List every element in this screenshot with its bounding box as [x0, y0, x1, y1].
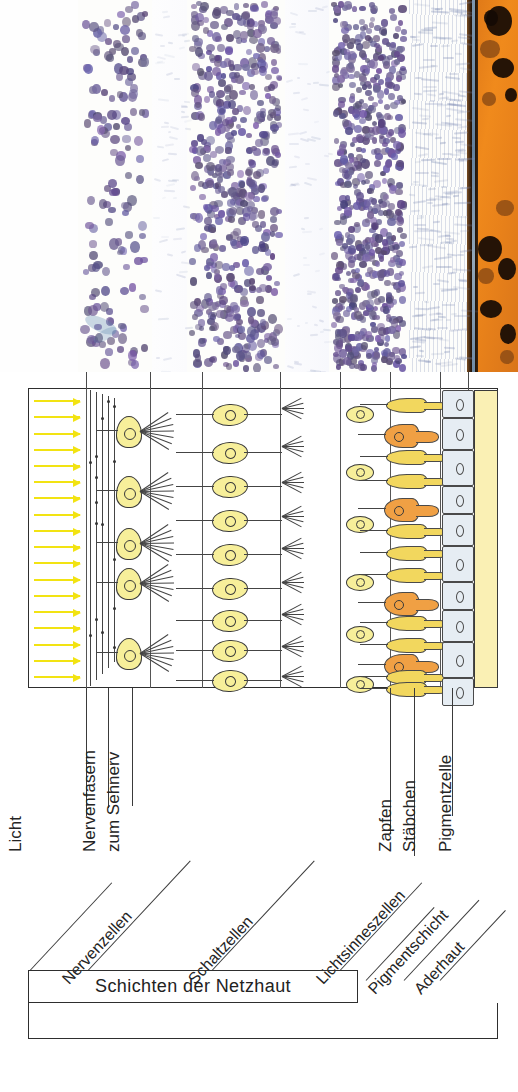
plexiform-fiber	[303, 257, 307, 259]
fiber-node	[95, 522, 98, 525]
micrograph-nucleus	[375, 315, 380, 320]
bipolar-axon	[244, 452, 282, 453]
cone-axon	[358, 602, 386, 603]
micrograph-nucleus	[92, 84, 101, 94]
micrograph-nucleus	[244, 266, 253, 276]
micrograph-nucleus	[338, 101, 345, 108]
micrograph-nucleus	[192, 35, 199, 42]
micrograph-nucleus	[84, 119, 91, 127]
pigment-cell	[442, 514, 474, 546]
bipolar-dendrite	[176, 680, 214, 681]
micrograph-nucleus	[215, 217, 223, 225]
photoreceptor-streak	[436, 266, 452, 268]
rod-axon	[360, 480, 388, 481]
label-zapfen: Zapfen	[376, 799, 396, 852]
micrograph-nucleus	[125, 231, 134, 239]
pigment-cell	[442, 582, 474, 610]
bipolar-axon	[244, 554, 282, 555]
micrograph-nucleus	[200, 233, 207, 240]
pigment-cell	[442, 390, 474, 418]
micrograph-nucleus	[338, 42, 345, 49]
layer-tick	[202, 372, 203, 388]
photoreceptor-streak	[415, 291, 425, 294]
rod-axon	[360, 622, 388, 623]
micrograph-nucleus	[390, 185, 397, 191]
micrograph-nucleus	[89, 22, 98, 32]
micrograph-nucleus	[331, 322, 337, 328]
light-arrow	[34, 497, 80, 499]
micrograph-nucleus	[242, 259, 250, 267]
light-arrow	[34, 514, 80, 516]
photoreceptor-streak	[432, 21, 448, 24]
micrograph-nucleus	[101, 89, 108, 96]
micrograph-nucleus	[136, 155, 144, 163]
micrograph-nucleus	[383, 210, 389, 216]
micrograph-nucleus	[237, 170, 244, 178]
micrograph-nucleus	[138, 221, 147, 231]
ganglion-axon	[96, 652, 118, 653]
micrograph-nucleus	[108, 207, 116, 214]
micrograph-nucleus	[210, 242, 218, 249]
micrograph-nucleus	[206, 162, 215, 171]
micrograph-nucleus	[249, 160, 256, 168]
light-arrow	[34, 627, 80, 629]
plexiform-fiber	[163, 15, 170, 18]
ganglion-cell	[116, 528, 142, 560]
micrograph-nucleus	[370, 310, 376, 317]
micrograph-nucleus	[225, 47, 233, 55]
pigment-cell	[442, 678, 474, 706]
choroid-brown-patch	[500, 350, 514, 364]
label-staebchen: Stäbchen	[400, 780, 420, 852]
rod-axon	[360, 456, 388, 457]
micrograph-nucleus	[356, 134, 363, 142]
bipolar-axon	[244, 486, 282, 487]
micrograph-nucleus	[338, 305, 344, 310]
micrograph-nucleus	[221, 73, 227, 79]
choroid-brown-patch	[496, 200, 514, 216]
micrograph-nucleus	[361, 342, 368, 349]
micrograph-nucleus	[231, 130, 238, 136]
bipolar-dendrite	[176, 588, 214, 589]
fiber-node	[113, 558, 116, 561]
horizontal-cell	[346, 406, 374, 423]
photoreceptor-streak	[454, 315, 470, 317]
micrograph-nucleus	[249, 212, 258, 220]
choroid-brown-patch	[478, 268, 494, 284]
micrograph-nucleus	[359, 50, 367, 58]
micrograph-nucleus	[335, 267, 342, 273]
bipolar-axon	[244, 680, 282, 681]
plexiform-fiber	[304, 216, 310, 218]
plexiform-fiber	[165, 143, 174, 146]
micrograph-nucleus	[332, 50, 340, 57]
micrograph-nucleus	[242, 64, 250, 71]
photoreceptor-streak	[426, 199, 436, 201]
micrograph-nucleus	[354, 311, 362, 320]
bipolar-axon	[244, 620, 282, 621]
micrograph-nucleus	[220, 61, 227, 69]
micrograph-nucleus	[348, 170, 354, 175]
micrograph-nucleus	[243, 106, 251, 115]
micrograph-nucleus	[258, 210, 266, 218]
micrograph-nucleus	[130, 241, 140, 252]
micrograph-nucleus	[350, 278, 357, 284]
bipolar-axon	[244, 414, 282, 415]
micrograph-nucleus	[226, 156, 235, 163]
micrograph-nucleus	[108, 179, 117, 188]
micrograph-nucleus	[105, 38, 112, 46]
micrograph-nucleus	[332, 83, 340, 91]
micrograph-nucleus	[359, 261, 367, 268]
micrograph-nucleus	[356, 87, 362, 93]
micrograph-nucleus	[350, 294, 358, 303]
micrograph-nucleus	[385, 160, 392, 168]
micrograph-nucleus	[227, 199, 236, 207]
light-arrow	[34, 530, 80, 532]
micrograph-nucleus	[331, 252, 338, 259]
micrograph-nucleus	[210, 253, 218, 262]
micrograph-nucleus	[339, 329, 347, 338]
ganglion-axon	[96, 542, 118, 543]
micrograph-nucleus	[389, 8, 395, 14]
choroid-pigment-blob	[498, 258, 516, 280]
layer-tick	[280, 372, 281, 388]
micrograph-nucleus	[348, 245, 356, 254]
micrograph-nucleus	[253, 29, 261, 38]
